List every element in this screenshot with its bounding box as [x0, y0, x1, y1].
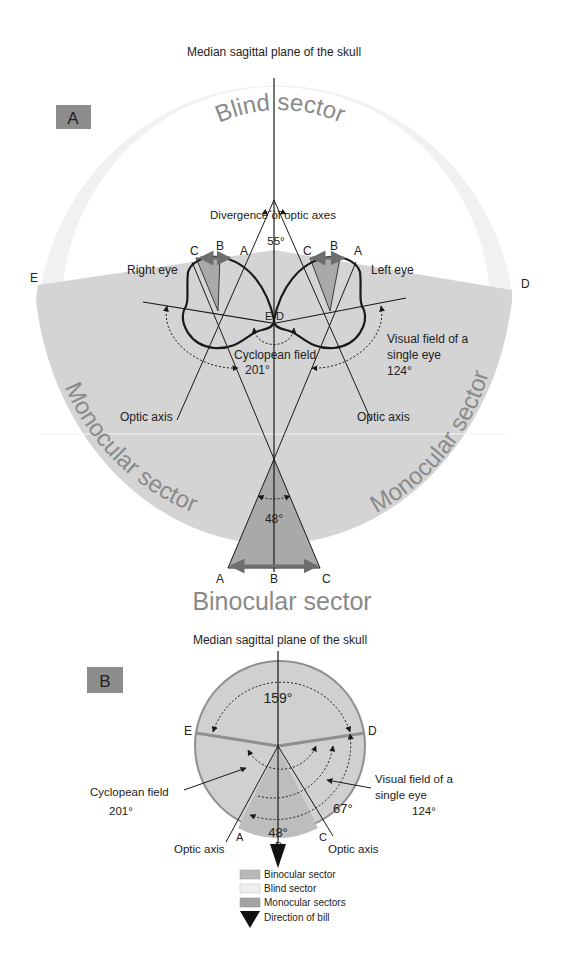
binocular-angle: 48°: [265, 512, 283, 526]
panel-a-badge-label: A: [67, 109, 79, 128]
point-c-left-eye: C: [303, 244, 312, 258]
cyclopean-label-b: Cyclopean field: [90, 786, 169, 798]
legend-bill-arrow-icon: [240, 911, 260, 928]
visual-field-label-b-2: single eye: [375, 789, 427, 801]
bill-direction-arrow: [270, 844, 286, 868]
panel-b: B Median sagittal plane of the skull 159…: [87, 633, 453, 868]
legend-label-binocular: Binocular sector: [264, 869, 336, 880]
legend-label-monocular: Monocular sectors: [264, 897, 346, 908]
right-eye-label: Right eye: [127, 263, 178, 277]
divergence-label: Divergence of optic axes: [210, 209, 336, 221]
visual-field-diagram: A Median sagittal plane of the skull Bli…: [0, 0, 564, 968]
left-eye-label: Left eye: [371, 263, 414, 277]
point-e-center: E: [265, 310, 272, 322]
legend-label-blind: Blind sector: [264, 883, 317, 894]
visual-field-label-1: Visual field of a: [387, 332, 468, 346]
point-c-right-eye: C: [190, 244, 199, 258]
optic-axis-left-b: Optic axis: [174, 843, 225, 855]
legend-swatch-monocular: [240, 898, 260, 907]
panel-b-title: Median sagittal plane of the skull: [193, 633, 367, 647]
panel-a-title: Median sagittal plane of the skull: [187, 45, 361, 59]
legend-swatch-blind: [240, 884, 260, 893]
optic-axis-right-b: Optic axis: [328, 843, 379, 855]
divergence-angle: 55°: [267, 235, 284, 247]
point-b-left-eye: B: [330, 239, 338, 253]
blind-sector-label: Blind sector: [211, 88, 349, 128]
point-e-outer: E: [30, 271, 38, 285]
point-e-b: E: [184, 724, 192, 738]
point-c-bottom: C: [322, 572, 331, 586]
point-b-bottom: B: [270, 572, 278, 586]
point-c-b: C: [319, 831, 327, 843]
panel-b-badge-label: B: [99, 672, 110, 691]
point-b-right-eye: B: [216, 239, 224, 253]
panel-a: A Median sagittal plane of the skull Bli…: [30, 45, 530, 615]
binocular-angle-b: 48°: [268, 825, 288, 840]
point-a-right-eye: A: [240, 244, 248, 258]
visual-field-label-2: single eye: [387, 348, 441, 362]
point-a-left-eye: A: [354, 244, 362, 258]
point-a-bottom: A: [216, 572, 224, 586]
point-a-b: A: [236, 831, 244, 843]
point-d-center: D: [276, 310, 284, 322]
cyclopean-angle-b: 201°: [109, 805, 133, 817]
visual-field-angle: 124°: [387, 364, 412, 378]
optic-axis-left-label: Optic axis: [120, 410, 173, 424]
visual-field-label-b-1: Visual field of a: [375, 773, 453, 785]
visual-field-angle-b: 124°: [412, 805, 436, 817]
legend-label-bill: Direction of bill: [264, 912, 330, 923]
point-d-outer: D: [521, 277, 530, 291]
legend-swatch-binocular: [240, 870, 260, 879]
cyclopean-angle: 201°: [245, 363, 270, 377]
cyclopean-label: Cyclopean field: [234, 348, 316, 362]
binocular-sector-label: Binocular sector: [192, 587, 371, 615]
legend: Binocular sector Blind sector Monocular …: [240, 869, 346, 928]
point-d-b: D: [368, 724, 377, 738]
monocular-angle-b: 67°: [333, 801, 353, 816]
blind-angle-b: 159°: [264, 690, 293, 706]
optic-axis-right-label: Optic axis: [357, 410, 410, 424]
